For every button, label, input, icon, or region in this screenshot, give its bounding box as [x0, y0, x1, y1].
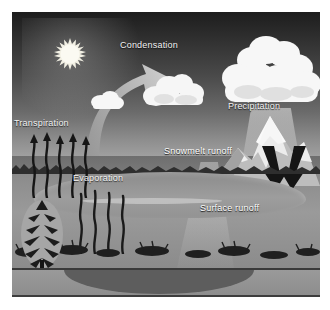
label-snowmelt-runoff: Snowmelt runoff	[164, 146, 232, 156]
small-cloud	[90, 88, 124, 110]
label-transpiration: Transpiration	[14, 118, 69, 128]
evergreen-tree	[18, 198, 76, 274]
label-surface-runoff: Surface runoff	[200, 203, 259, 213]
label-precipitation: Precipitation	[228, 101, 280, 111]
bedrock-line	[12, 295, 320, 297]
water-cycle-figure: Condensation Precipitation Transpiration…	[0, 0, 330, 310]
label-evaporation: Evaporation	[73, 173, 123, 183]
cumulus-cloud	[142, 70, 206, 108]
label-condensation: Condensation	[120, 40, 178, 50]
illustration-canvas: Condensation Precipitation Transpiration…	[12, 12, 320, 297]
